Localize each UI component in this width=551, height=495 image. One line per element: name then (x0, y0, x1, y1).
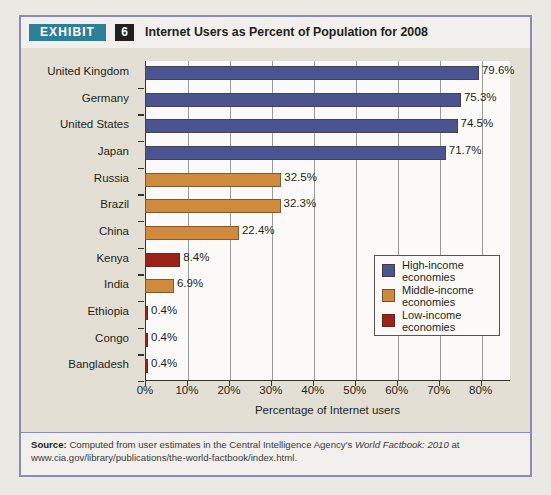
category-label: Congo (95, 332, 129, 344)
category-axis-labels: United KingdomGermanyUnited StatesJapanR… (21, 61, 139, 381)
legend-item: High-income economies (382, 260, 500, 285)
y-axis-tick (138, 168, 144, 169)
bar-value-label: 0.4% (151, 304, 177, 316)
x-axis-tick (271, 381, 272, 386)
x-axis-tick (145, 381, 146, 386)
bar-value-label: 71.7% (449, 144, 482, 156)
bar-row: 79.6% (145, 61, 510, 88)
category-label: United States (60, 118, 129, 130)
bar (145, 226, 239, 240)
y-axis-tick (138, 381, 144, 382)
legend-label: Low-income economies (402, 309, 461, 334)
bar (145, 199, 281, 213)
y-axis-tick (138, 301, 144, 302)
bar (145, 93, 461, 107)
bar (145, 173, 281, 187)
y-axis-tick (138, 221, 144, 222)
y-axis-tick (138, 328, 144, 329)
legend-swatch (382, 264, 395, 277)
category-label: Japan (98, 145, 129, 157)
y-axis-tick (138, 194, 144, 195)
bar-value-label: 74.5% (461, 117, 494, 129)
source-note: Source: Computed from user estimates in … (31, 438, 521, 464)
bar-value-label: 32.3% (284, 197, 317, 209)
bar-value-label: 32.5% (284, 171, 317, 183)
bar-value-label: 0.4% (151, 357, 177, 369)
x-axis-tick-labels: 0%10%20%30%40%50%60%70%80% (145, 384, 510, 400)
exhibit-badge: EXHIBIT (29, 24, 106, 41)
bar (145, 333, 148, 347)
category-label: India (104, 278, 129, 290)
category-label: Kenya (96, 252, 129, 264)
chart-legend: High-income economiesMiddle-income econo… (374, 255, 500, 336)
x-axis-tick (355, 381, 356, 386)
bar-row: 22.4% (145, 221, 510, 248)
source-publication-title: World Factbook: 2010 (355, 439, 449, 450)
bar-value-label: 79.6% (482, 64, 515, 76)
x-axis-tick (313, 381, 314, 386)
y-axis-tick (138, 141, 144, 142)
exhibit-number-badge: 6 (115, 24, 134, 41)
x-axis-tick (481, 381, 482, 386)
y-axis-tick (138, 114, 144, 115)
legend-swatch (382, 289, 395, 302)
bar-row: 32.5% (145, 168, 510, 195)
bar (145, 146, 446, 160)
source-divider (21, 432, 530, 433)
bar-row: 71.7% (145, 141, 510, 168)
category-label: Brazil (100, 198, 129, 210)
category-label: United Kingdom (47, 65, 129, 77)
bar-value-label: 0.4% (151, 331, 177, 343)
legend-swatch (382, 314, 395, 327)
bar-value-label: 8.4% (183, 251, 209, 263)
legend-label: Middle-income economies (402, 284, 474, 309)
bar (145, 119, 458, 133)
y-axis-tick (138, 274, 144, 275)
bar-value-label: 6.9% (177, 277, 203, 289)
page-title: Internet Users as Percent of Population … (145, 24, 428, 41)
x-axis-tick (187, 381, 188, 386)
bar (145, 279, 174, 293)
exhibit-figure: EXHIBIT 6 Internet Users as Percent of P… (19, 15, 532, 477)
source-label: Source: (31, 439, 67, 450)
legend-item: Low-income economies (382, 310, 500, 335)
x-axis-tick (229, 381, 230, 386)
bar-row: 74.5% (145, 114, 510, 141)
legend-label: High-income economies (402, 259, 464, 284)
bar-value-label: 22.4% (242, 224, 275, 236)
chart-panel: United KingdomGermanyUnited StatesJapanR… (21, 48, 530, 432)
bar-row: 75.3% (145, 88, 510, 115)
bar-row: 32.3% (145, 194, 510, 221)
bar (145, 66, 479, 80)
y-axis-tick (138, 354, 144, 355)
category-label: Russia (94, 172, 129, 184)
bar (145, 253, 180, 267)
category-label: Ethiopia (87, 305, 129, 317)
legend-item: Middle-income economies (382, 285, 500, 310)
bar (145, 306, 148, 320)
bar (145, 359, 148, 373)
x-axis-tick (397, 381, 398, 386)
category-label: Bangladesh (68, 358, 129, 370)
x-axis-title: Percentage of Internet users (145, 404, 510, 416)
x-axis-tick (439, 381, 440, 386)
bar-value-label: 75.3% (464, 91, 497, 103)
category-label: China (99, 225, 129, 237)
exhibit-header: EXHIBIT 6 Internet Users as Percent of P… (21, 17, 530, 48)
category-label: Germany (82, 92, 129, 104)
y-axis-tick (138, 248, 144, 249)
bar-row: 0.4% (145, 354, 510, 381)
y-axis-tick (138, 88, 144, 89)
